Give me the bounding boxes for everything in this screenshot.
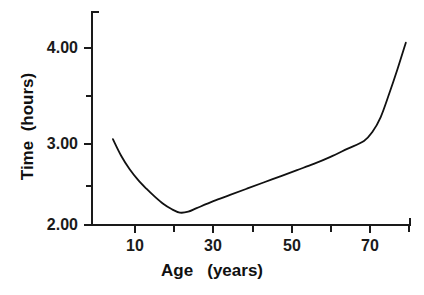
y-axis-title: Time (hours) [19,37,36,217]
data-line-sleep-time-vs-age [113,43,406,213]
y-tick-label-2-00: 2.00 [36,217,78,233]
y-tick-label-3-00: 3.00 [36,136,78,152]
x-axis-title: Age (years) [0,262,424,279]
x-axis-spine [92,218,410,225]
x-tick-label-70: 70 [350,238,390,254]
x-tick-label-10: 10 [115,238,155,254]
y-axis-major-ticks [84,48,92,225]
y-tick-label-4-00: 4.00 [36,40,78,56]
x-tick-label-50: 50 [272,238,312,254]
chart-figure: 4.00 3.00 2.00 10 30 50 70 Age (years) T… [0,0,424,295]
x-tick-label-30: 30 [193,238,233,254]
y-axis-spine [92,12,99,225]
